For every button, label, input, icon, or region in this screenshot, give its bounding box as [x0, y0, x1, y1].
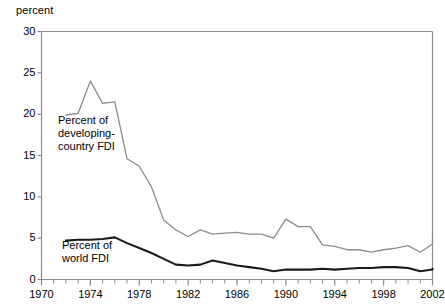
x-tick-label: 1998 [364, 289, 404, 300]
y-tick-label: 20 [12, 108, 36, 119]
series-line-developing-country-fdi [66, 81, 433, 252]
x-tick-label: 1986 [217, 289, 257, 300]
series-line-world-fdi [66, 237, 433, 271]
x-tick-label: 1990 [266, 289, 306, 300]
y-tick-label: 15 [12, 150, 36, 161]
x-axis-ticks [42, 280, 433, 286]
y-tick-label: 10 [12, 191, 36, 202]
y-tick-label: 5 [12, 232, 36, 243]
x-tick-label: 1974 [70, 289, 110, 300]
developing-country-label: Percent of developing- country FDI [58, 114, 115, 154]
y-tick-label: 25 [12, 67, 36, 78]
x-tick-label: 1970 [22, 289, 62, 300]
y-tick-label: 30 [12, 26, 36, 37]
fdi-share-line-chart: percent 051015202530 1970197419781982198… [0, 0, 445, 304]
y-tick-label: 0 [12, 274, 36, 285]
x-tick-label: 1982 [168, 289, 208, 300]
x-tick-label: 1978 [119, 289, 159, 300]
x-tick-label: 1994 [315, 289, 355, 300]
x-tick-label: 2002 [413, 289, 445, 300]
world-fdi-label: Percent of world FDI [62, 239, 112, 265]
